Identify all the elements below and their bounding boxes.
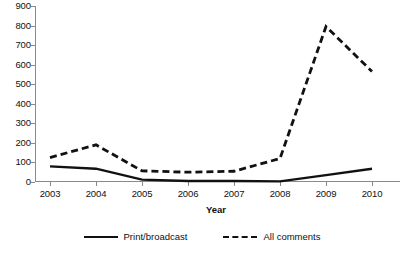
y-axis-tick-label: 700 xyxy=(1,40,31,50)
x-axis-tick-label: 2009 xyxy=(306,188,346,199)
x-axis-tick-label: 2007 xyxy=(214,188,254,199)
y-axis-tick-label: 0 xyxy=(1,177,31,187)
x-axis-tick-label: 2003 xyxy=(30,188,70,199)
x-axis-tick-mark xyxy=(188,182,189,186)
series-line-all-comments xyxy=(50,27,372,173)
x-axis-tick-mark xyxy=(234,182,235,186)
y-axis-tick-label: 800 xyxy=(1,21,31,31)
legend-item-print-broadcast: Print/broadcast xyxy=(84,231,188,242)
legend-label-all-comments: All comments xyxy=(263,231,320,242)
x-axis-tick-mark xyxy=(326,182,327,186)
legend-swatch-solid-line-icon xyxy=(84,236,118,238)
x-axis-tick-label: 2006 xyxy=(168,188,208,199)
line-chart: 0100200300400500600700800900 20032004200… xyxy=(0,0,404,265)
series-line-print-broadcast xyxy=(50,166,372,181)
x-axis-title: Year xyxy=(35,204,397,215)
x-axis-tick-mark xyxy=(372,182,373,186)
chart-legend: Print/broadcast All comments xyxy=(0,231,404,242)
x-axis-tick-label: 2004 xyxy=(76,188,116,199)
y-axis-tick-label: 500 xyxy=(1,79,31,89)
y-axis-tick-label: 300 xyxy=(1,118,31,128)
y-axis-tick-label: 200 xyxy=(1,138,31,148)
y-axis-tick-label: 400 xyxy=(1,99,31,109)
legend-item-all-comments: All comments xyxy=(223,231,320,242)
x-axis-tick-label: 2005 xyxy=(122,188,162,199)
series-lines xyxy=(35,6,397,182)
plot-area xyxy=(35,6,397,182)
x-axis-tick-mark xyxy=(50,182,51,186)
x-axis-tick-label: 2008 xyxy=(260,188,300,199)
y-axis-tick-labels: 0100200300400500600700800900 xyxy=(0,0,31,190)
x-axis-tick-label: 2010 xyxy=(352,188,392,199)
x-axis-tick-mark xyxy=(142,182,143,186)
y-axis-tick-label: 600 xyxy=(1,60,31,70)
legend-swatch-dashed-line-icon xyxy=(223,236,257,238)
x-axis-tick-mark xyxy=(96,182,97,186)
y-axis-tick-label: 100 xyxy=(1,157,31,167)
legend-label-print-broadcast: Print/broadcast xyxy=(124,231,188,242)
y-axis-tick-label: 900 xyxy=(1,1,31,11)
